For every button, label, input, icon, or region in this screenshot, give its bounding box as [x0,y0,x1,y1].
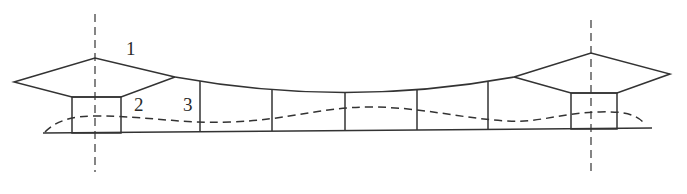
left-pier-cap [14,58,175,97]
label-2: 2 [134,94,144,115]
diagram-canvas: 1 2 3 [0,0,687,194]
right-pier-box [571,93,617,129]
label-1: 1 [126,38,136,59]
baseline [43,128,652,133]
label-3: 3 [183,94,193,115]
right-pier-cap [514,53,670,93]
left-pier-box [72,97,121,133]
top-chord [175,77,514,93]
